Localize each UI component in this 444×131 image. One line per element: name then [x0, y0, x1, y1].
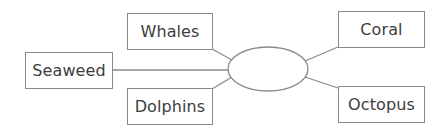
node-label: Coral	[360, 20, 402, 39]
node-label: Whales	[141, 22, 200, 41]
center-oval	[228, 47, 308, 91]
node-label: Octopus	[348, 95, 415, 114]
node-label: Seaweed	[32, 61, 105, 80]
spider-diagram: Whales Seaweed Dolphins Coral Octopus	[0, 0, 444, 131]
node-octopus: Octopus	[338, 86, 425, 123]
node-coral: Coral	[338, 11, 425, 48]
node-seaweed: Seaweed	[25, 52, 113, 89]
node-whales: Whales	[127, 13, 213, 50]
node-label: Dolphins	[135, 97, 206, 116]
node-dolphins: Dolphins	[127, 88, 213, 125]
connector-whales	[212, 49, 232, 60]
connector-octopus	[305, 77, 338, 88]
connector-dolphins	[212, 77, 232, 89]
connector-coral	[305, 47, 338, 61]
